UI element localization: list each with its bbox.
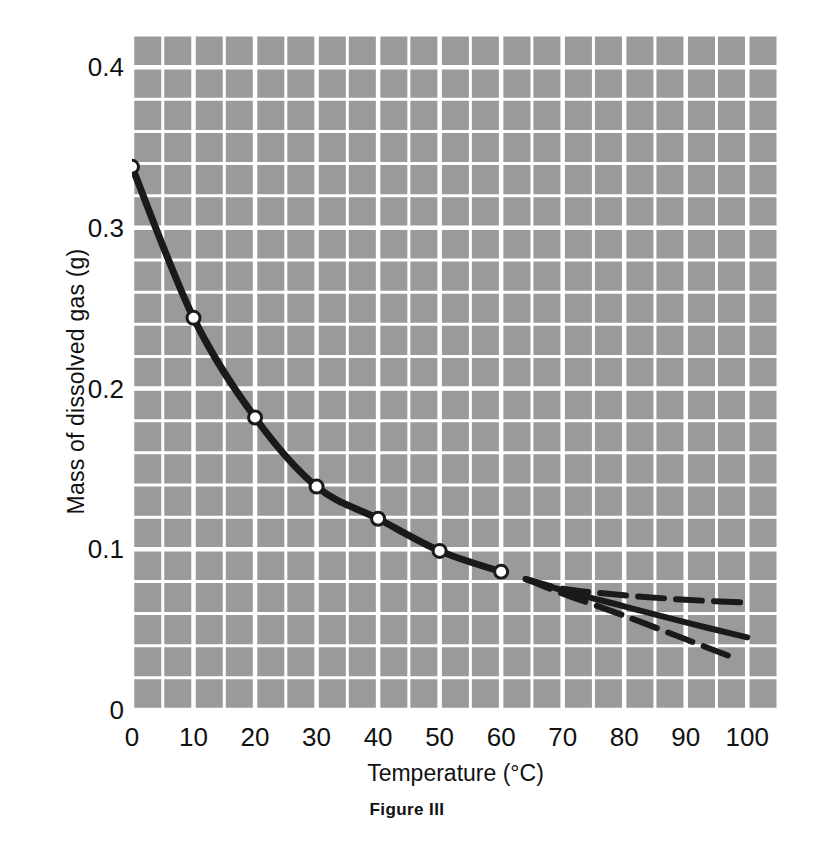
y-tick-label: 0.4 [52, 54, 124, 80]
data-point-marker [433, 544, 446, 557]
chart-svg [132, 35, 778, 710]
data-point-marker [372, 512, 385, 525]
y-tick-label: 0.1 [52, 536, 124, 562]
x-axis-tick-labels: 0102030405060708090100 [0, 722, 814, 762]
data-point-marker [187, 311, 200, 324]
x-axis-title: Temperature (°C) [133, 760, 778, 787]
y-tick-label: 0.2 [52, 376, 124, 402]
plot-area [132, 35, 778, 710]
figure-caption: Figure III [0, 800, 814, 820]
data-point-marker [310, 480, 323, 493]
y-tick-label: 0 [52, 697, 124, 723]
data-point-marker [132, 160, 139, 173]
plot-background [132, 35, 778, 710]
data-point-marker [495, 565, 508, 578]
x-tick-label: 100 [707, 722, 787, 752]
data-point-marker [249, 411, 262, 424]
figure-container: Mass of dissolved gas (g) 00.10.20.30.4 … [0, 0, 814, 849]
y-tick-label: 0.3 [52, 215, 124, 241]
